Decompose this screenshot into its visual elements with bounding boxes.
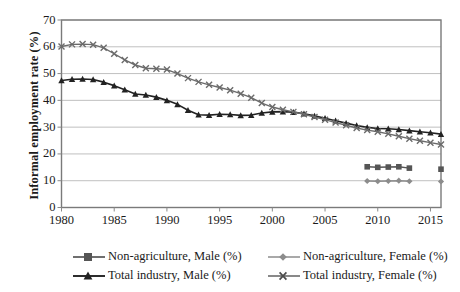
legend-label: Total industry, Male (%): [106, 268, 231, 283]
data-marker: [364, 164, 370, 170]
data-marker: [438, 178, 444, 184]
data-marker: [406, 178, 412, 184]
data-marker: [185, 75, 191, 81]
data-marker: [185, 107, 191, 113]
legend-label: Total industry, Female (%): [301, 268, 437, 283]
series-line: [62, 44, 442, 144]
legend-item-non-agriculture-female: Non-agriculture, Female (%): [267, 247, 460, 266]
legend-item-non-agriculture-male: Non-agriculture, Male (%): [72, 247, 255, 266]
data-marker: [375, 165, 381, 171]
data-marker: [438, 166, 444, 172]
legend-label: Non-agriculture, Male (%): [106, 249, 242, 264]
data-marker: [259, 100, 265, 106]
square-marker-icon: [72, 250, 106, 264]
legend-item-total-industry-female: Total industry, Female (%): [267, 266, 460, 285]
legend-item-total-industry-male: Total industry, Male (%): [72, 266, 255, 285]
data-marker: [248, 95, 254, 101]
data-marker: [375, 178, 381, 184]
cross-marker-icon: [267, 269, 301, 283]
data-marker: [364, 178, 370, 184]
chart-legend: Non-agriculture, Male (%) Non-agricultur…: [0, 247, 460, 289]
data-marker: [407, 165, 413, 171]
data-marker: [396, 164, 402, 170]
series-line: [62, 79, 442, 134]
series-2: [58, 76, 444, 137]
diamond-marker-icon: [267, 250, 301, 264]
series-0: [364, 164, 443, 172]
triangle-marker-icon: [72, 269, 106, 283]
data-marker: [385, 164, 391, 170]
chart-container: Informal employment rate (%) 01020304050…: [0, 0, 460, 292]
legend-label: Non-agriculture, Female (%): [301, 249, 448, 264]
data-marker: [122, 57, 128, 63]
data-marker: [396, 178, 402, 184]
data-marker: [111, 51, 117, 57]
data-marker: [385, 178, 391, 184]
series-3: [59, 41, 445, 147]
